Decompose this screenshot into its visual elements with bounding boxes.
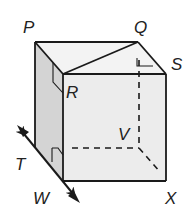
- label-X: X: [164, 189, 177, 208]
- label-R: R: [66, 83, 78, 102]
- label-S: S: [171, 55, 183, 74]
- label-W: W: [33, 189, 51, 208]
- arrowhead-up-icon: [17, 125, 29, 137]
- label-V: V: [118, 125, 131, 144]
- label-P: P: [23, 18, 35, 37]
- label-Q: Q: [134, 18, 147, 37]
- cube-diagram: P Q S R V T W X: [0, 0, 190, 215]
- arrowhead-down-icon: [68, 191, 80, 203]
- front-face: [63, 74, 166, 181]
- label-T: T: [15, 155, 27, 174]
